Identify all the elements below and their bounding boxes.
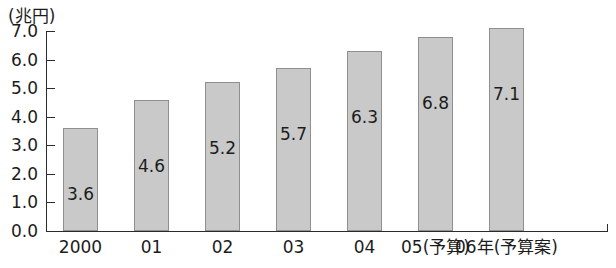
x-label-03: 03 <box>283 239 305 256</box>
y-tick-mark-1 <box>47 202 55 203</box>
y-tick-label-6: 6.0 <box>0 52 38 69</box>
bar-value-04: 6.3 <box>343 109 387 126</box>
y-tick-label-0: 0.0 <box>0 223 38 240</box>
bar-04 <box>347 51 382 231</box>
bar-06 <box>489 28 524 231</box>
y-tick-label-3: 3.0 <box>0 137 38 154</box>
y-tick-label-7: 7.0 <box>0 23 38 40</box>
plot-area: 3.6 4.6 5.2 5.7 6.3 6.8 7.1 <box>46 31 608 231</box>
x-label-04: 04 <box>354 239 376 256</box>
x-label-01: 01 <box>141 239 163 256</box>
y-tick-mark-3 <box>47 145 55 146</box>
bar-chart: (兆円) 7.0 6.0 5.0 4.0 3.0 2.0 1.0 0.0 3.6… <box>0 0 616 268</box>
y-tick-mark-5 <box>47 88 55 89</box>
y-tick-mark-2 <box>47 174 55 175</box>
bar-value-01: 4.6 <box>130 158 174 175</box>
x-label-06: 06年(予算案) <box>455 239 558 256</box>
bar-value-2000: 3.6 <box>59 186 103 203</box>
bar-value-05: 6.8 <box>414 95 458 112</box>
y-tick-label-4: 4.0 <box>0 109 38 126</box>
x-axis-line <box>46 231 608 232</box>
y-tick-label-1: 1.0 <box>0 194 38 211</box>
bar-value-02: 5.2 <box>201 140 245 157</box>
x-label-02: 02 <box>212 239 234 256</box>
bar-03 <box>276 68 311 231</box>
x-label-2000: 2000 <box>59 239 102 256</box>
y-tick-label-5: 5.0 <box>0 80 38 97</box>
y-tick-mark-4 <box>47 117 55 118</box>
x-axis-end-tick <box>607 224 608 232</box>
bar-value-06: 7.1 <box>485 86 529 103</box>
bar-2000 <box>63 128 98 231</box>
y-tick-mark-6 <box>47 60 55 61</box>
bar-value-03: 5.7 <box>272 126 316 143</box>
bar-05 <box>418 37 453 231</box>
y-tick-mark-7 <box>47 31 55 32</box>
y-tick-label-2: 2.0 <box>0 166 38 183</box>
y-axis-line <box>46 31 47 231</box>
